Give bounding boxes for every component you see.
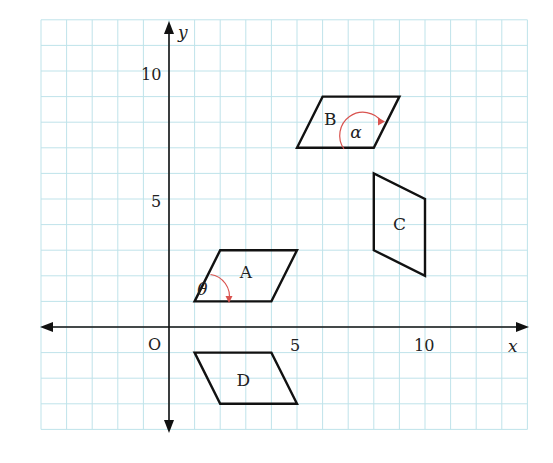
- grid-lines: [41, 20, 527, 430]
- alpha-arrowhead-icon: [378, 118, 385, 126]
- coordinate-plane: y x O 5 10 5 10 ABCDθα: [0, 0, 553, 463]
- x-axis-left-arrow-icon: [40, 322, 53, 332]
- origin-label: O: [148, 335, 161, 354]
- y-tick-5: 5: [151, 192, 161, 211]
- y-axis-label: y: [177, 22, 188, 42]
- x-tick-5: 5: [290, 336, 300, 355]
- shape-label-a: A: [239, 262, 253, 282]
- angle-label-a: θ: [197, 279, 207, 299]
- y-tick-10: 10: [141, 65, 161, 84]
- shape-label-c: C: [393, 214, 406, 234]
- axes: y x O 5 10 5 10: [40, 21, 529, 433]
- shape-label-b: B: [324, 109, 337, 129]
- coordinate-diagram: y x O 5 10 5 10 ABCDθα: [0, 0, 553, 463]
- shape-label-d: D: [236, 370, 250, 390]
- x-axis-label: x: [508, 336, 518, 356]
- y-axis-down-arrow-icon: [164, 420, 174, 433]
- y-axis-up-arrow-icon: [164, 21, 174, 34]
- angle-label-b: α: [350, 122, 362, 142]
- x-tick-10: 10: [414, 336, 434, 355]
